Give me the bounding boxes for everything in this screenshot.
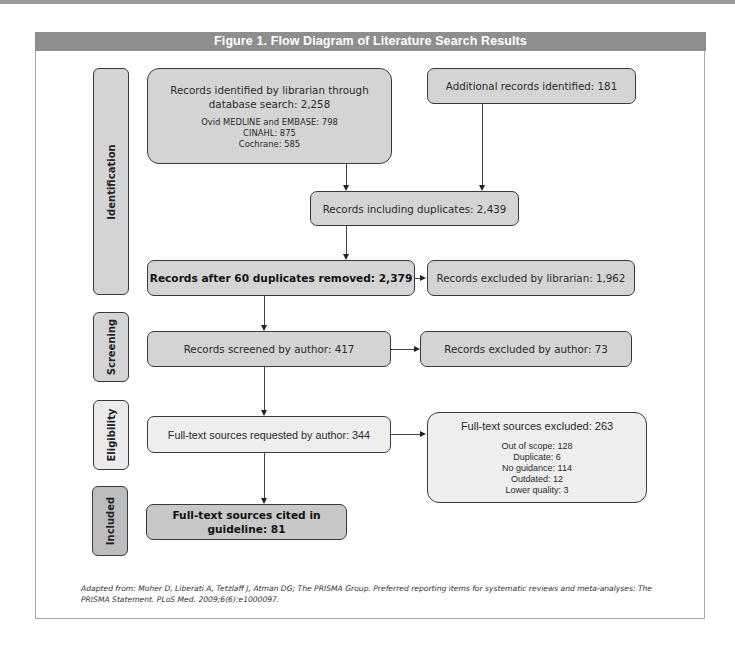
connector bbox=[346, 226, 347, 254]
top-bar bbox=[0, 0, 735, 4]
screened-box: Records screened by author: 417 bbox=[147, 331, 391, 367]
sub-item: Lower quality: 3 bbox=[501, 485, 572, 496]
sub-item: Duplicate: 6 bbox=[501, 452, 572, 463]
box-main-text: Records excluded by author: 73 bbox=[444, 342, 608, 356]
connector bbox=[346, 164, 347, 185]
box-main-text: Records screened by author: 417 bbox=[184, 342, 355, 356]
after-duplicates-box: Records after 60 duplicates removed: 2,3… bbox=[147, 260, 415, 296]
box-main-text: Records after 60 duplicates removed: 2,3… bbox=[150, 271, 413, 285]
arrow-down-icon bbox=[261, 498, 267, 504]
arrow-right-icon bbox=[420, 431, 426, 437]
stage-label: Eligibility bbox=[106, 408, 117, 461]
connector bbox=[391, 349, 414, 350]
box-sub-list: Ovid MEDLINE and EMBASE: 798 CINAHL: 875… bbox=[201, 117, 338, 150]
sub-item: Cochrane: 585 bbox=[201, 139, 338, 150]
connector bbox=[264, 296, 265, 325]
box-main-text: Full-text sources requested by author: 3… bbox=[168, 428, 370, 442]
sub-item: Out of scope: 128 bbox=[501, 441, 572, 452]
database-search-box: Records identified by librarian through … bbox=[147, 68, 392, 164]
fulltext-excluded-box: Full-text sources excluded: 263 Out of s… bbox=[427, 412, 647, 503]
stage-eligibility: Eligibility bbox=[93, 400, 129, 470]
stage-identification: Identification bbox=[93, 68, 129, 295]
stage-included: Included bbox=[92, 486, 128, 556]
cited-box: Full-text sources cited in guideline: 81 bbox=[146, 504, 347, 540]
arrow-down-icon bbox=[479, 185, 485, 191]
additional-records-box: Additional records identified: 181 bbox=[427, 68, 636, 104]
box-sub-list: Out of scope: 128 Duplicate: 6 No guidan… bbox=[501, 441, 572, 496]
box-main-text: Records including duplicates: 2,439 bbox=[323, 202, 507, 216]
figure-caption: Adapted from: Moher D, Liberati A, Tetzl… bbox=[81, 583, 681, 605]
stage-label: Identification bbox=[106, 144, 117, 219]
stage-screening: Screening bbox=[93, 312, 129, 382]
sub-item: Outdated: 12 bbox=[501, 474, 572, 485]
arrow-right-icon bbox=[414, 346, 420, 352]
sub-item: CINAHL: 875 bbox=[201, 128, 338, 139]
box-main-text: Records excluded by librarian: 1,962 bbox=[437, 271, 626, 285]
connector bbox=[264, 367, 265, 410]
excluded-librarian-box: Records excluded by librarian: 1,962 bbox=[427, 260, 635, 296]
arrow-right-icon bbox=[420, 275, 426, 281]
connector bbox=[482, 104, 483, 185]
connector bbox=[264, 453, 265, 498]
including-duplicates-box: Records including duplicates: 2,439 bbox=[310, 191, 519, 226]
sub-item: No guidance: 114 bbox=[501, 463, 572, 474]
arrow-down-icon bbox=[261, 325, 267, 331]
box-main-text: Records identified by librarian through … bbox=[170, 83, 370, 111]
arrow-down-icon bbox=[261, 410, 267, 416]
sub-item: Ovid MEDLINE and EMBASE: 798 bbox=[201, 117, 338, 128]
requested-box: Full-text sources requested by author: 3… bbox=[147, 416, 391, 453]
arrow-down-icon bbox=[343, 185, 349, 191]
figure-title: Figure 1. Flow Diagram of Literature Sea… bbox=[35, 32, 706, 51]
stage-label: Included bbox=[105, 497, 116, 545]
stage-label: Screening bbox=[106, 319, 117, 375]
arrow-down-icon bbox=[343, 254, 349, 260]
box-main-text: Full-text sources cited in guideline: 81 bbox=[147, 508, 346, 536]
box-main-text: Full-text sources excluded: 263 bbox=[461, 419, 613, 433]
box-main-text: Additional records identified: 181 bbox=[446, 79, 617, 93]
excluded-author-box: Records excluded by author: 73 bbox=[420, 331, 632, 367]
connector bbox=[391, 434, 421, 435]
